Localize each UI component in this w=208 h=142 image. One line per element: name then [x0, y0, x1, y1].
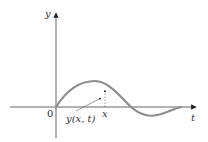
displacement-label: y(x, t)	[65, 113, 96, 124]
origin-label: 0	[47, 108, 53, 119]
leader-line	[76, 98, 101, 111]
wave-diagram: y t 0 x y(x, t)	[0, 0, 208, 142]
x-mark-label: x	[102, 108, 108, 119]
y-axis-label: y	[44, 8, 51, 19]
t-axis-label: t	[191, 112, 196, 123]
wave-curve	[56, 81, 181, 116]
